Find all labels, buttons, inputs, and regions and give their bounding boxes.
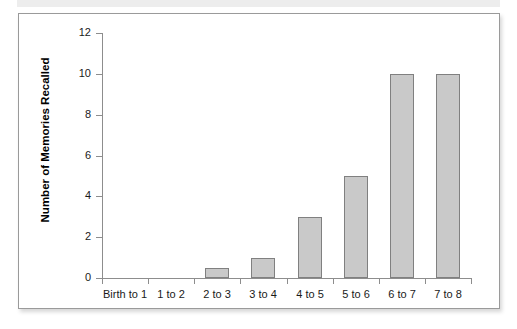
y-tick-label-text: 12 — [61, 27, 91, 38]
x-tick-mark — [287, 278, 288, 284]
y-tick-label-text: 0 — [61, 272, 91, 283]
x-tick-mark — [471, 278, 472, 284]
y-tick-label-text: 4 — [61, 190, 91, 201]
bar — [390, 74, 414, 278]
y-tick-mark — [96, 237, 102, 238]
y-tick-label: 4 — [61, 190, 91, 202]
x-tick-label: Birth to 1 — [102, 288, 148, 300]
y-tick-label: 0 — [61, 272, 91, 284]
x-tick-label: 7 to 8 — [425, 288, 471, 300]
y-tick-mark — [96, 33, 102, 34]
x-tick-label: 5 to 6 — [333, 288, 379, 300]
x-tick-label: 1 to 2 — [148, 288, 194, 300]
bar — [344, 176, 368, 278]
y-tick-label-text: 10 — [61, 68, 91, 79]
x-tick-label: 6 to 7 — [379, 288, 425, 300]
y-tick-mark — [96, 196, 102, 197]
x-tick-label: 4 to 5 — [287, 288, 333, 300]
x-tick-mark — [148, 278, 149, 284]
x-tick-mark — [194, 278, 195, 284]
x-tick-mark — [333, 278, 334, 284]
bar — [436, 74, 460, 278]
x-tick-label: 2 to 3 — [194, 288, 240, 300]
y-tick-label: 8 — [61, 109, 91, 121]
y-tick-mark — [96, 74, 102, 75]
x-tick-mark — [425, 278, 426, 284]
x-tick-label: 3 to 4 — [240, 288, 286, 300]
y-axis-line — [102, 33, 103, 279]
y-tick-label-text: 6 — [61, 150, 91, 161]
y-tick-label: 6 — [61, 150, 91, 162]
y-axis-title: Number of Memories Recalled — [39, 45, 51, 235]
y-tick-label-text: 2 — [61, 231, 91, 242]
chart-frame: Number of Memories Recalled 024681012 Bi… — [18, 13, 500, 309]
bar — [298, 217, 322, 278]
y-tick-mark — [96, 115, 102, 116]
y-tick-mark — [96, 156, 102, 157]
x-tick-mark — [379, 278, 380, 284]
top-decorative-band — [17, 0, 500, 7]
bar — [205, 268, 229, 278]
y-tick-label: 10 — [61, 68, 91, 80]
y-tick-label: 12 — [61, 27, 91, 39]
x-tick-mark — [102, 278, 103, 284]
x-tick-mark — [240, 278, 241, 284]
bar — [251, 258, 275, 278]
y-tick-label: 2 — [61, 231, 91, 243]
y-tick-label-text: 8 — [61, 109, 91, 120]
